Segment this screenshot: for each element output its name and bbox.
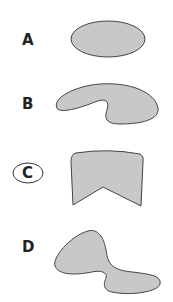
shape-d-twisted: [55, 230, 160, 293]
shape-c-notched: [71, 151, 143, 206]
shape-a-oval: [71, 21, 145, 57]
option-c-selected-circle: [13, 163, 43, 183]
shape-b-kidney: [56, 84, 158, 124]
shapes-canvas: [0, 0, 173, 302]
